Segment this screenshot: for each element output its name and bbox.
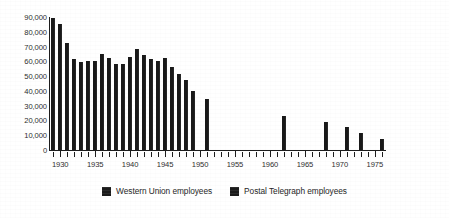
legend-label: Western Union employees [116,187,212,196]
bar [93,61,97,150]
y-axis-tick-label: 40,000 [0,88,47,96]
bar [58,24,62,150]
bar [86,61,90,150]
legend-label: Postal Telegraph employees [244,187,347,196]
bar [177,74,181,149]
y-axis-tick-label: 80,000 [0,29,47,37]
bar [72,59,76,149]
axes: 1930193519401945195019551960196519701975 [49,0,434,170]
bars-container [49,17,386,150]
y-axis-tick-label: 70,000 [0,44,47,52]
bar [121,64,125,150]
x-axis-tick-label: 1945 [157,160,174,169]
y-axis-tick-label: 60,000 [0,58,47,66]
x-axis-tick-label: 1965 [297,160,314,169]
bar-chart: 010,00020,00030,00040,00050,00060,00070,… [0,0,449,218]
legend-swatch-postal-telegraph [230,187,239,196]
bar [114,64,118,150]
x-axis-tick-label: 1930 [52,160,69,169]
legend-entry: Western Union employees [102,187,212,196]
chart-legend: Western Union employeesPostal Telegraph … [0,181,449,201]
bar [163,58,167,150]
y-axis-tick-label: 10,000 [0,132,47,140]
x-axis-labels: 1930193519401945195019551960196519701975 [49,157,386,170]
plot-area: 010,00020,00030,00040,00050,00060,00070,… [0,0,449,170]
x-axis-tick-label: 1935 [87,160,104,169]
y-axis-tick-label: 20,000 [0,117,47,125]
y-axis-tick-label: 30,000 [0,103,47,111]
bar [282,116,286,150]
bar [65,43,69,149]
x-axis-tick-label: 1970 [332,160,349,169]
bar [170,67,174,150]
bar [205,99,209,149]
bar [142,55,146,150]
bar [324,122,328,150]
y-axis-tick-label: 0 [0,147,47,155]
bar [191,91,195,150]
legend-entry: Postal Telegraph employees [230,187,347,196]
x-axis-tick-label: 1960 [262,160,279,169]
x-axis-tick-label: 1940 [122,160,139,169]
bar [184,80,188,149]
x-axis-tick-label: 1950 [192,160,209,169]
bar [100,54,104,150]
bar [51,18,55,150]
bar [149,59,153,149]
y-axis-labels: 010,00020,00030,00040,00050,00060,00070,… [0,0,47,170]
bar [359,133,363,149]
x-axis-tick-label: 1975 [367,160,384,169]
x-axis-tick-label: 1955 [227,160,244,169]
bar [380,139,384,149]
bar [345,127,349,149]
bar [156,61,160,150]
bar [107,58,111,150]
bar [128,57,132,150]
bar [79,62,83,149]
bar [135,49,139,149]
y-axis-tick-label: 50,000 [0,73,47,81]
y-axis-tick-label: 90,000 [0,14,47,22]
legend-swatch-western-union [102,187,111,196]
